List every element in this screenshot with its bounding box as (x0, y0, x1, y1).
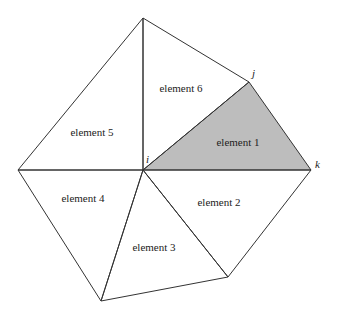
element-6-label: element 6 (159, 82, 203, 94)
element-3-label: element 3 (132, 241, 176, 253)
element-3-shape (101, 170, 228, 301)
node-j-label: j (250, 67, 255, 79)
node-i-label: i (146, 153, 149, 165)
element-4-label: element 4 (61, 192, 105, 204)
element-1-label: element 1 (216, 136, 259, 148)
element-2-shape (143, 170, 311, 277)
element-1-shape (143, 82, 311, 170)
node-k-label: k (315, 158, 321, 170)
element-4-shape (18, 170, 143, 301)
element-5-shape (18, 18, 143, 170)
element-2-label: element 2 (197, 196, 240, 208)
mesh-diagram: element 1 element 2 element 3 element 4 … (0, 0, 337, 317)
element-5-label: element 5 (70, 126, 114, 138)
